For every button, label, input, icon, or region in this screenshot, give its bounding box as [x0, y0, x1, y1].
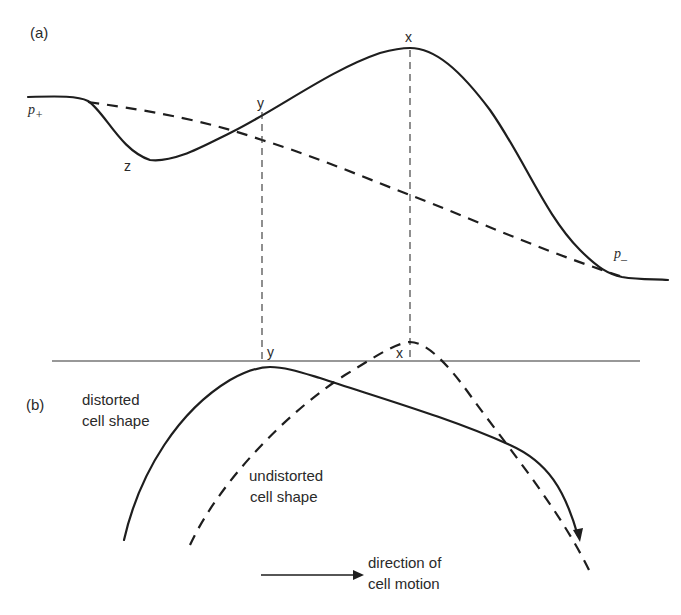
y-label-b: y — [267, 344, 274, 360]
x-label-a: x — [405, 29, 412, 45]
distorted-caption-line1: distorted — [82, 391, 140, 408]
distorted-cell-shape-curve — [124, 367, 578, 540]
undistorted-caption-line2: cell shape — [250, 488, 318, 505]
p-plus-label: p+ — [27, 102, 43, 122]
y-label-a: y — [257, 95, 264, 111]
motion-caption-line1: direction of — [368, 554, 442, 571]
panel-b-label: (b) — [26, 396, 44, 413]
p-minus-label: p– — [613, 246, 628, 266]
distorted-caption-line2: cell shape — [82, 412, 150, 429]
undistorted-profile-curve — [88, 102, 620, 276]
distorted-curve-arrowhead-icon — [573, 528, 583, 542]
cell-shape-diagram: (a) p+ p– z y x y x (b) distorted cell s… — [0, 0, 681, 615]
z-label: z — [124, 158, 131, 174]
x-label-b: x — [396, 345, 403, 361]
panel-a-label: (a) — [30, 24, 48, 41]
motion-caption-line2: cell motion — [368, 575, 440, 592]
undistorted-caption-line1: undistorted — [249, 467, 323, 484]
right-arrow-icon — [353, 570, 364, 580]
